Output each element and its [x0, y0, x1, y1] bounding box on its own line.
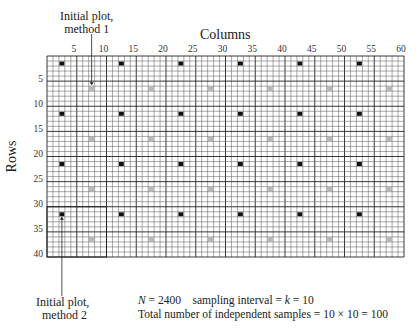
column-tick-label: 30 — [218, 44, 228, 54]
gray-sample-square — [268, 187, 273, 191]
column-tick-label: 35 — [248, 44, 258, 54]
gray-sample-square — [149, 237, 154, 241]
row-tick-label: 40 — [34, 249, 44, 259]
black-sample-square — [238, 62, 243, 66]
black-sample-square — [119, 212, 124, 216]
black-sample-square — [119, 162, 124, 166]
gray-sample-square — [89, 87, 94, 91]
black-sample-square — [178, 62, 183, 66]
row-tick-label: 25 — [34, 174, 44, 184]
column-tick-label: 40 — [277, 44, 287, 54]
gray-sample-square — [327, 87, 332, 91]
column-tick-label: 45 — [307, 44, 317, 54]
black-sample-square — [357, 62, 362, 66]
column-tick-label: 15 — [129, 44, 139, 54]
column-tick-label: 25 — [188, 44, 198, 54]
gray-sample-square — [327, 187, 332, 191]
black-sample-square — [238, 112, 243, 116]
sampling-grid: 51015202530354045505560510152025303540 — [0, 0, 416, 328]
column-tick-label: 50 — [337, 44, 347, 54]
gray-sample-square — [149, 87, 154, 91]
row-tick-label: 20 — [34, 149, 44, 159]
black-sample-square — [297, 162, 302, 166]
black-sample-square — [357, 212, 362, 216]
gray-sample-square — [387, 187, 392, 191]
column-tick-label: 5 — [71, 44, 76, 54]
black-sample-square — [178, 112, 183, 116]
black-sample-square — [119, 62, 124, 66]
row-tick-label: 5 — [38, 74, 43, 84]
column-tick-label: 55 — [367, 44, 377, 54]
row-tick-label: 35 — [34, 224, 44, 234]
column-tick-label: 10 — [99, 44, 109, 54]
black-sample-square — [238, 212, 243, 216]
black-sample-square — [357, 162, 362, 166]
gray-sample-square — [327, 237, 332, 241]
row-tick-label: 15 — [34, 124, 44, 134]
black-sample-square — [59, 62, 64, 66]
column-tick-label: 20 — [158, 44, 168, 54]
black-sample-square — [119, 112, 124, 116]
black-sample-square — [59, 162, 64, 166]
arrow-down-icon — [90, 82, 94, 85]
black-sample-square — [178, 162, 183, 166]
gray-sample-square — [387, 87, 392, 91]
black-sample-square — [297, 112, 302, 116]
row-tick-label: 10 — [34, 99, 44, 109]
black-sample-square — [297, 62, 302, 66]
gray-sample-square — [89, 237, 94, 241]
gray-sample-square — [208, 137, 213, 141]
gray-sample-square — [149, 137, 154, 141]
gray-sample-square — [89, 137, 94, 141]
gray-sample-square — [268, 237, 273, 241]
black-sample-square — [238, 162, 243, 166]
gray-sample-square — [149, 187, 154, 191]
black-sample-square — [297, 212, 302, 216]
black-sample-square — [178, 212, 183, 216]
gray-sample-square — [387, 137, 392, 141]
black-sample-square — [59, 112, 64, 116]
gray-sample-square — [208, 237, 213, 241]
black-sample-square — [59, 212, 64, 216]
arrow-up-icon — [60, 217, 64, 220]
gray-sample-square — [387, 237, 392, 241]
gray-sample-square — [268, 137, 273, 141]
gray-sample-square — [268, 87, 273, 91]
gray-sample-square — [327, 137, 332, 141]
gray-sample-square — [208, 187, 213, 191]
row-tick-label: 30 — [34, 199, 44, 209]
gray-sample-square — [89, 187, 94, 191]
column-tick-label: 60 — [396, 44, 406, 54]
gray-sample-square — [208, 87, 213, 91]
black-sample-square — [357, 112, 362, 116]
